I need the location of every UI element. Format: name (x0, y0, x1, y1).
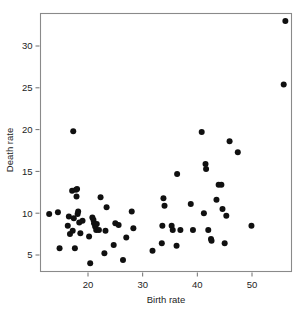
data-point (281, 81, 287, 87)
data-point (65, 223, 71, 229)
data-point (235, 149, 241, 155)
y-tick-label: 20 (22, 124, 33, 135)
data-point (222, 240, 228, 246)
data-point (120, 257, 126, 263)
x-tick-label: 40 (192, 279, 203, 290)
data-point (96, 227, 102, 233)
data-point (227, 138, 233, 144)
data-point (218, 182, 224, 188)
y-tick-label: 5 (27, 249, 32, 260)
data-point (130, 225, 136, 231)
data-point (209, 238, 215, 244)
data-point (70, 128, 76, 134)
data-point (201, 210, 207, 216)
data-point (86, 234, 92, 240)
data-point (102, 228, 108, 234)
data-point (111, 242, 117, 248)
data-point (87, 260, 93, 266)
data-point (188, 201, 194, 207)
data-point (116, 222, 122, 228)
data-point (94, 221, 100, 227)
data-point (223, 213, 229, 219)
data-point (177, 227, 183, 233)
data-point (199, 129, 205, 135)
scatter-plot-figure: 20304050 51015202530 Birth rate Death ra… (0, 0, 304, 311)
data-point (46, 211, 52, 217)
data-point (75, 209, 81, 215)
data-point (98, 194, 104, 200)
data-point (123, 234, 129, 240)
x-axis-title: Birth rate (147, 294, 186, 305)
data-point (55, 209, 61, 215)
data-point (205, 227, 211, 233)
plot-canvas: 20304050 51015202530 Birth rate Death ra… (0, 0, 304, 311)
data-point (80, 218, 86, 224)
x-tick-label: 30 (137, 279, 148, 290)
data-point (174, 171, 180, 177)
data-point (282, 18, 288, 24)
data-point (174, 243, 180, 249)
y-tick-label: 25 (22, 82, 33, 93)
y-axis-title: Death rate (4, 128, 15, 172)
plot-background (0, 0, 304, 311)
data-point (219, 206, 225, 212)
x-tick-label: 20 (83, 279, 94, 290)
data-point (74, 193, 80, 199)
y-tick-label: 30 (22, 40, 33, 51)
data-point (170, 227, 176, 233)
data-point (74, 186, 80, 192)
data-point (129, 209, 135, 215)
data-point (190, 227, 196, 233)
data-point (72, 245, 78, 251)
data-point (70, 228, 76, 234)
data-point (213, 197, 219, 203)
data-point (159, 240, 165, 246)
x-tick-label: 50 (247, 279, 258, 290)
data-point (159, 223, 165, 229)
data-point (162, 203, 168, 209)
data-point (57, 245, 63, 251)
y-tick-label: 10 (22, 208, 33, 219)
data-point (150, 248, 156, 254)
data-point (160, 195, 166, 201)
data-point (77, 230, 83, 236)
data-point (101, 250, 107, 256)
data-point (203, 166, 209, 172)
y-tick-label: 15 (22, 166, 33, 177)
data-point (104, 204, 110, 210)
data-point (248, 223, 254, 229)
